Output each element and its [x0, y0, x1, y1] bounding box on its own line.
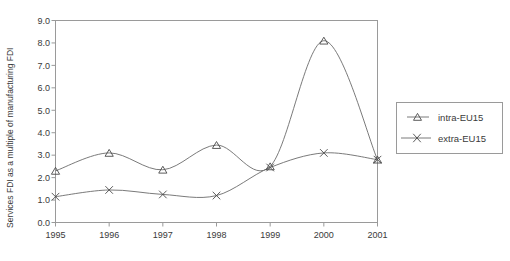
x-tick-label: 1996: [99, 230, 119, 240]
y-tick-label: 3.0: [37, 150, 50, 160]
legend-box: [397, 103, 503, 154]
chart-figure: Services FDI as a multiple of manufactur…: [0, 0, 510, 261]
y-tick-label: 8.0: [37, 38, 50, 48]
y-axis-title: Services FDI as a multiple of manufactur…: [5, 48, 15, 228]
y-tick-label: 5.0: [37, 106, 50, 116]
x-tick-label: 2001: [367, 230, 387, 240]
y-tick-label: 1.0: [37, 195, 50, 205]
legend-label-intra: intra-EU15: [438, 112, 483, 123]
y-tick-label: 7.0: [37, 61, 50, 71]
x-tick-label: 1999: [260, 230, 280, 240]
y-tick-label: 6.0: [37, 83, 50, 93]
y-tick-label: 9.0: [37, 16, 50, 26]
x-tick-label: 1998: [206, 230, 226, 240]
x-tick-label: 1997: [153, 230, 173, 240]
x-tick-label: 2000: [314, 230, 334, 240]
y-axis-title-group: Services FDI as a multiple of manufactur…: [5, 48, 15, 228]
x-tick-label: 1995: [45, 230, 65, 240]
legend-label-extra: extra-EU15: [438, 133, 486, 144]
y-tick-label: 0.0: [37, 218, 50, 228]
y-tick-label: 2.0: [37, 173, 50, 183]
legend-entry-extra-eu15: extra-EU15: [401, 133, 486, 144]
y-tick-label: 4.0: [37, 128, 50, 138]
legend: intra-EU15 extra-EU15: [397, 103, 503, 154]
